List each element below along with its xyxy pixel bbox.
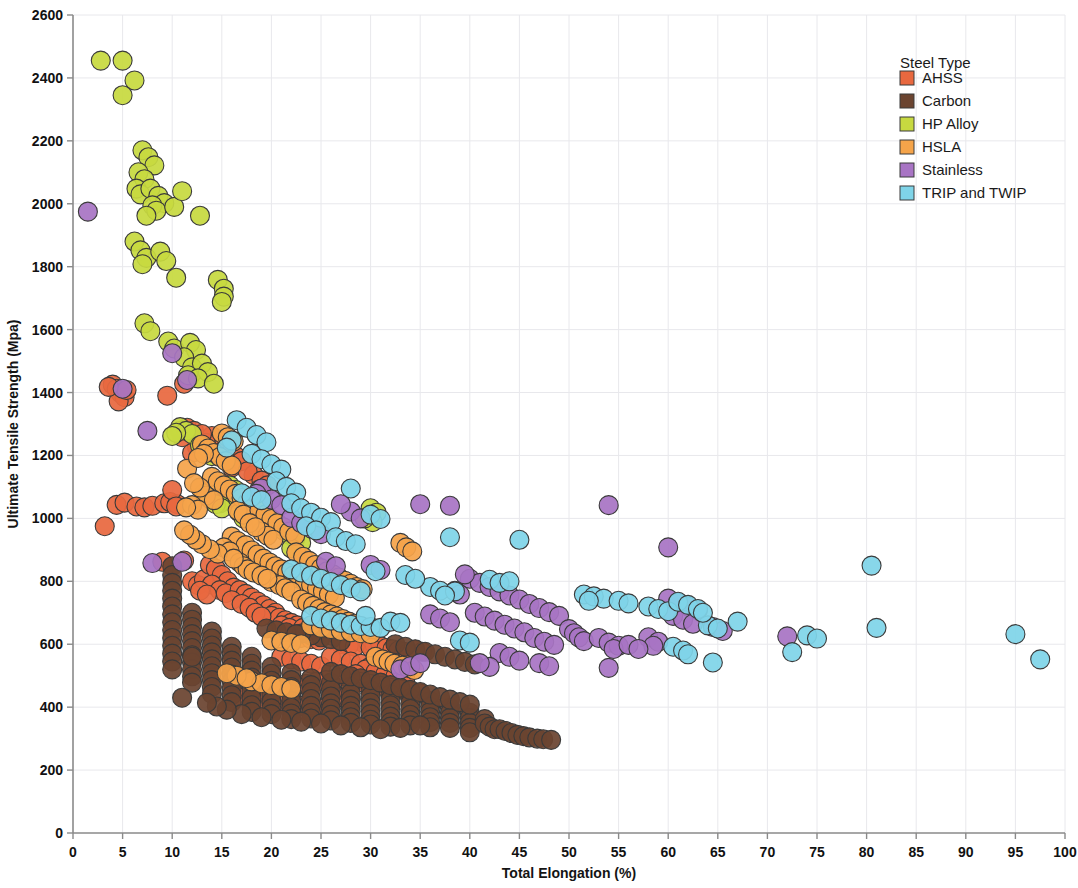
data-point[interactable]: [141, 322, 160, 341]
data-point[interactable]: [391, 718, 410, 737]
data-point[interactable]: [510, 530, 529, 549]
data-point[interactable]: [545, 635, 564, 654]
data-point[interactable]: [346, 535, 365, 554]
data-point[interactable]: [371, 510, 390, 529]
data-point[interactable]: [659, 538, 678, 557]
data-point[interactable]: [197, 585, 216, 604]
data-point[interactable]: [197, 693, 216, 712]
data-point[interactable]: [540, 657, 559, 676]
data-point[interactable]: [252, 491, 271, 510]
data-point[interactable]: [222, 456, 241, 475]
data-point[interactable]: [629, 639, 648, 658]
legend-item-hp-alloy[interactable]: HP Alloy: [900, 115, 979, 132]
data-point[interactable]: [307, 521, 326, 540]
data-point[interactable]: [173, 182, 192, 201]
data-point[interactable]: [312, 714, 331, 733]
data-point[interactable]: [703, 653, 722, 672]
data-point[interactable]: [411, 716, 430, 735]
data-point[interactable]: [436, 586, 455, 605]
legend-item-stainless[interactable]: Stainless: [900, 161, 983, 178]
data-point[interactable]: [158, 386, 177, 405]
data-point[interactable]: [204, 374, 223, 393]
data-point[interactable]: [708, 619, 727, 638]
data-point[interactable]: [292, 712, 311, 731]
data-point[interactable]: [693, 603, 712, 622]
data-point[interactable]: [292, 635, 311, 654]
data-point[interactable]: [272, 710, 291, 729]
data-point[interactable]: [177, 498, 196, 517]
data-point[interactable]: [599, 658, 618, 677]
data-point[interactable]: [188, 448, 207, 467]
data-point[interactable]: [183, 647, 202, 666]
data-point[interactable]: [679, 645, 698, 664]
data-point[interactable]: [113, 86, 132, 105]
data-point[interactable]: [351, 718, 370, 737]
data-point[interactable]: [341, 479, 360, 498]
data-point[interactable]: [1031, 650, 1050, 669]
data-point[interactable]: [510, 651, 529, 670]
data-point[interactable]: [1006, 625, 1025, 644]
data-point[interactable]: [808, 629, 827, 648]
data-point[interactable]: [163, 660, 182, 679]
data-point[interactable]: [143, 554, 162, 573]
data-point[interactable]: [455, 565, 474, 584]
data-point[interactable]: [185, 474, 204, 493]
data-point[interactable]: [224, 549, 243, 568]
data-point[interactable]: [237, 669, 256, 688]
data-point[interactable]: [411, 654, 430, 673]
data-point[interactable]: [862, 556, 881, 575]
data-point[interactable]: [411, 495, 430, 514]
data-point[interactable]: [163, 426, 182, 445]
data-point[interactable]: [138, 421, 157, 440]
data-point[interactable]: [252, 708, 271, 727]
data-point[interactable]: [440, 613, 459, 632]
data-point[interactable]: [212, 292, 231, 311]
data-point[interactable]: [366, 562, 385, 581]
data-point[interactable]: [579, 591, 598, 610]
data-point[interactable]: [356, 606, 375, 625]
data-point[interactable]: [406, 569, 425, 588]
data-point[interactable]: [783, 643, 802, 662]
data-point[interactable]: [113, 51, 132, 70]
data-point[interactable]: [173, 688, 192, 707]
data-point[interactable]: [163, 481, 182, 500]
data-point[interactable]: [391, 613, 410, 632]
data-point[interactable]: [157, 252, 176, 271]
data-point[interactable]: [163, 344, 182, 363]
data-point[interactable]: [460, 633, 479, 652]
data-point[interactable]: [133, 255, 152, 274]
legend-item-carbon[interactable]: Carbon: [900, 92, 971, 109]
data-point[interactable]: [167, 268, 186, 287]
data-point[interactable]: [113, 379, 132, 398]
data-point[interactable]: [500, 572, 519, 591]
data-point[interactable]: [246, 518, 265, 537]
data-point[interactable]: [190, 206, 209, 225]
data-point[interactable]: [217, 438, 236, 457]
data-point[interactable]: [599, 496, 618, 515]
data-point[interactable]: [440, 528, 459, 547]
data-point[interactable]: [175, 521, 194, 540]
data-point[interactable]: [137, 206, 156, 225]
data-point[interactable]: [371, 720, 390, 739]
data-point[interactable]: [173, 552, 192, 571]
data-point[interactable]: [95, 517, 114, 536]
legend-item-ahss[interactable]: AHSS: [900, 69, 963, 86]
legend-item-trip-and-twip[interactable]: TRIP and TWIP: [900, 184, 1026, 201]
data-point[interactable]: [78, 202, 97, 221]
data-point[interactable]: [460, 695, 479, 714]
data-point[interactable]: [440, 718, 459, 737]
data-point[interactable]: [91, 51, 110, 70]
data-point[interactable]: [470, 654, 489, 673]
data-point[interactable]: [542, 730, 561, 749]
data-point[interactable]: [217, 664, 236, 683]
data-point[interactable]: [351, 582, 370, 601]
legend-item-hsla[interactable]: HSLA: [900, 138, 961, 155]
data-point[interactable]: [282, 679, 301, 698]
data-point[interactable]: [867, 618, 886, 637]
data-point[interactable]: [258, 569, 277, 588]
data-point[interactable]: [331, 716, 350, 735]
data-point[interactable]: [403, 542, 422, 561]
data-point[interactable]: [728, 612, 747, 631]
data-point[interactable]: [619, 594, 638, 613]
data-point[interactable]: [178, 370, 197, 389]
